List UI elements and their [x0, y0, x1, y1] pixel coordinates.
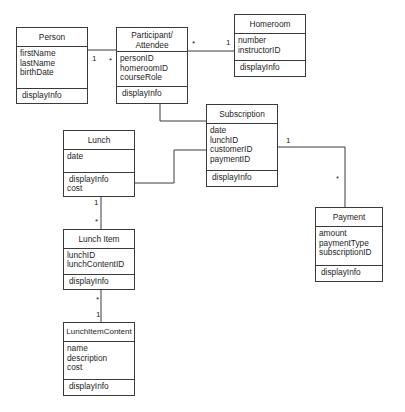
class-name: Lunch Item — [64, 230, 134, 249]
attribute: birthDate — [20, 68, 84, 78]
operations-section: displayInfo — [316, 266, 382, 281]
class-lunch-item: Lunch Item lunchID lunchContentID displa… — [63, 229, 135, 290]
operations-section: displayInfo cost — [64, 173, 134, 196]
assoc-lunch-subscription — [135, 150, 206, 183]
attribute: courseRole — [120, 73, 184, 83]
class-participant-attendee: Participant/ Attendee personID homeroomI… — [116, 27, 188, 104]
operations-section: displayInfo — [64, 275, 134, 289]
class-name: Subscription — [207, 105, 277, 124]
operation: displayInfo — [22, 91, 82, 101]
class-subscription: Subscription date lunchID customerID pay… — [206, 104, 278, 187]
class-lunch: Lunch date displayInfo cost — [63, 130, 135, 197]
multiplicity-label: 1 — [226, 39, 230, 47]
attributes-section: date lunchID customerID paymentID — [207, 124, 277, 171]
assoc-participant-subscription — [160, 104, 206, 121]
attribute: instructorID — [238, 46, 302, 56]
operations-section: displayInfo — [64, 380, 134, 395]
multiplicity-label: 1 — [286, 137, 290, 145]
class-homeroom: Homeroom number instructorID displayInfo — [234, 14, 306, 77]
multiplicity-label: * — [192, 40, 195, 48]
attribute: lunchContentID — [67, 260, 131, 270]
attributes-section: lunchID lunchContentID — [64, 249, 134, 276]
class-name: Participant/ Attendee — [117, 28, 187, 52]
operation: displayInfo — [321, 268, 377, 278]
multiplicity-label: * — [336, 175, 339, 183]
operation: displayInfo — [212, 173, 272, 183]
attributes-section: number instructorID — [235, 34, 305, 61]
operation: cost — [67, 184, 129, 194]
attributes-section: firstName lastName birthDate — [17, 47, 87, 89]
operations-section: displayInfo — [207, 171, 277, 186]
multiplicity-label: * — [96, 296, 99, 304]
class-lunch-item-content: LunchItemContent name description cost d… — [63, 322, 135, 396]
attributes-section: date — [64, 150, 134, 173]
assoc-subscription-payment — [278, 147, 345, 207]
attribute: cost — [67, 363, 131, 373]
class-name: Lunch — [64, 131, 134, 150]
operation: displayInfo — [69, 382, 129, 392]
multiplicity-label: 1 — [96, 311, 100, 319]
multiplicity-label: 1 — [92, 55, 96, 63]
class-person: Person firstName lastName birthDate disp… — [16, 27, 88, 104]
attribute: date — [67, 152, 131, 162]
attribute: subscriptionID — [319, 248, 379, 258]
multiplicity-label: * — [95, 218, 98, 226]
operations-section: displayInfo — [17, 89, 87, 103]
attributes-section: amount paymentType subscriptionID — [316, 227, 382, 266]
class-name: LunchItemContent — [64, 323, 134, 342]
operation: displayInfo — [240, 63, 300, 73]
operations-section: displayInfo — [117, 87, 187, 103]
operations-section: displayInfo — [235, 61, 305, 76]
attributes-section: personID homeroomID courseRole — [117, 52, 187, 87]
class-name: Payment — [316, 208, 382, 227]
operation: displayInfo — [122, 89, 182, 99]
operation: displayInfo — [69, 277, 129, 287]
multiplicity-label: 1 — [94, 199, 98, 207]
multiplicity-label: * — [109, 57, 112, 65]
attributes-section: name description cost — [64, 342, 134, 380]
class-name: Homeroom — [235, 15, 305, 34]
class-payment: Payment amount paymentType subscriptionI… — [315, 207, 383, 282]
attribute: paymentID — [210, 155, 274, 165]
class-name: Person — [17, 28, 87, 47]
